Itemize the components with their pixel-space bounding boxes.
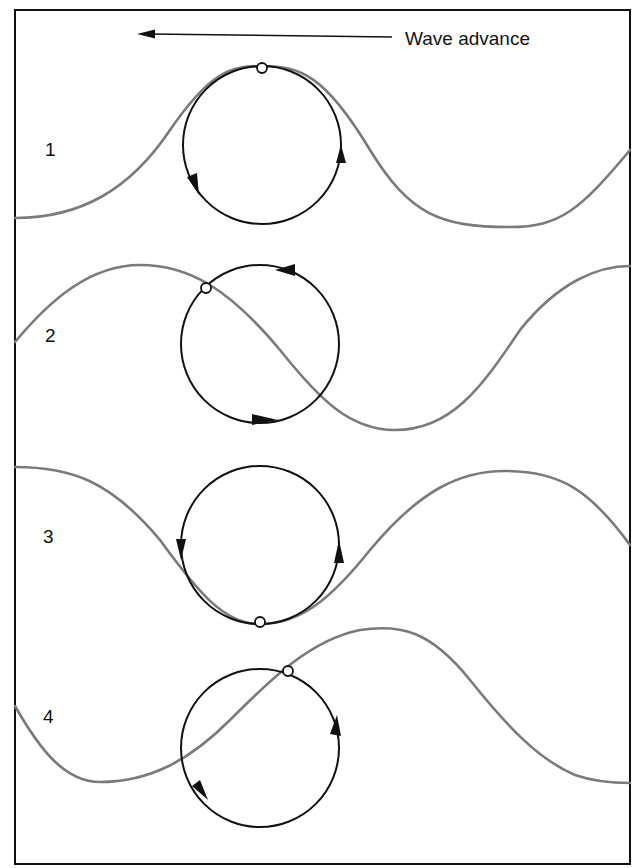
orbit-arrow-down-icon [187, 173, 199, 195]
panel-label-2: 2 [45, 325, 56, 346]
water-particle-1 [257, 63, 267, 73]
particle-orbit-1 [183, 66, 341, 224]
advance-arrow-line [150, 34, 392, 37]
orbit-arrow-up-icon [336, 145, 346, 163]
panel-4: 4 [15, 628, 630, 827]
particle-orbit-3 [181, 466, 339, 624]
orbit-arrow-down-icon-3 [176, 539, 186, 560]
water-particle-3 [255, 617, 265, 627]
water-particle-2 [201, 283, 211, 293]
wave-orbit-diagram: Wave advance 1 2 3 4 [0, 0, 637, 868]
wave-profile-4 [15, 628, 630, 783]
advance-arrow-icon [137, 30, 155, 39]
orbit-arrow-down-icon-4 [192, 780, 208, 800]
panel-label-4: 4 [43, 706, 54, 727]
wave-profile-3 [15, 467, 630, 624]
wave-advance-indicator: Wave advance [137, 28, 530, 49]
orbit-arrow-up-icon-4 [330, 715, 341, 736]
orbit-arrow-up-icon-3 [334, 540, 344, 563]
wave-profile-2 [15, 265, 630, 430]
panel-3: 3 [15, 466, 630, 627]
orbit-arrow-left-icon [275, 264, 295, 276]
panel-1: 1 [15, 63, 630, 227]
water-particle-4 [283, 666, 293, 676]
panel-label-1: 1 [45, 139, 56, 160]
advance-label: Wave advance [405, 28, 530, 49]
particle-orbit-4 [181, 669, 339, 827]
wave-profile-1 [15, 66, 630, 227]
panel-label-3: 3 [43, 526, 54, 547]
panel-2: 2 [15, 264, 630, 430]
figure-frame [15, 10, 630, 864]
